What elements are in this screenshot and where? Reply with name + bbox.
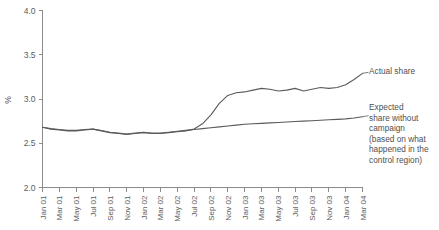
annotation-actual-share: Actual share [369, 66, 439, 77]
y-axis-ticks [39, 11, 43, 188]
x-tick-label: Mar 04 [359, 195, 368, 220]
annotation-expected-share: Expected share without campaign (based o… [369, 102, 439, 165]
y-tick-label: 2.0 [24, 183, 36, 193]
x-tick-label: Nov 03 [325, 195, 334, 221]
x-tick-label: Mar 02 [156, 195, 165, 220]
x-tick-label: Mar 03 [257, 195, 266, 220]
y-tick-label: 4.0 [24, 6, 36, 16]
annotation-leader-lines [363, 72, 369, 116]
series-line-actual-share [43, 73, 363, 134]
data-series-group [43, 73, 363, 134]
x-tick-label: Jan 04 [342, 195, 351, 220]
leader-line-actual [363, 72, 369, 73]
series-line-expected-share [43, 117, 363, 134]
x-tick-label: Mar 01 [55, 195, 64, 220]
y-tick-label: 2.5 [24, 138, 36, 148]
y-axis-tick-labels: 2.02.53.03.54.0 [24, 6, 36, 193]
y-tick-label: 3.5 [24, 50, 36, 60]
x-tick-label: May 03 [274, 195, 283, 222]
x-tick-label: May 02 [173, 195, 182, 222]
x-tick-label: Nov 02 [224, 195, 233, 221]
x-tick-label: Sep 01 [106, 195, 115, 221]
x-tick-label: May 01 [72, 195, 81, 222]
leader-line-expected [363, 116, 369, 117]
x-tick-label: Sep 02 [207, 195, 216, 221]
x-tick-label: Jul 03 [291, 195, 300, 217]
x-tick-label: Jan 01 [39, 195, 48, 220]
x-tick-label: Jul 01 [89, 195, 98, 217]
x-tick-label: Sep 03 [308, 195, 317, 221]
x-tick-label: Jul 02 [190, 195, 199, 217]
x-tick-label: Nov 01 [123, 195, 132, 221]
y-tick-label: 3.0 [24, 94, 36, 104]
x-tick-label: Jan 03 [241, 195, 250, 220]
line-chart: 2.02.53.03.54.0 Jan 01Mar 01May 01Jul 01… [0, 0, 439, 230]
x-axis-ticks [43, 188, 363, 192]
x-tick-label: Jan 02 [140, 195, 149, 220]
y-axis-title: % [3, 96, 13, 104]
x-axis-tick-labels: Jan 01Mar 01May 01Jul 01Sep 01Nov 01Jan … [39, 195, 368, 222]
